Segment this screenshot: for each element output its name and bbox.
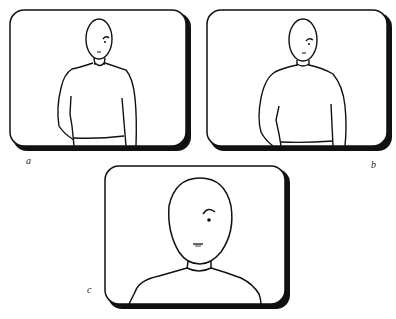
tv-frame-figure-close-up bbox=[103, 164, 293, 312]
panel-label-c: c bbox=[87, 284, 91, 295]
panel-c bbox=[103, 164, 293, 312]
panel-a bbox=[8, 8, 194, 154]
panel-label-a: a bbox=[26, 155, 31, 166]
panel-b bbox=[205, 8, 395, 154]
panel-label-b: b bbox=[371, 159, 376, 170]
tv-frame-figure-medium-shot bbox=[205, 8, 395, 154]
tv-frame-figure-long-shot bbox=[8, 8, 194, 154]
